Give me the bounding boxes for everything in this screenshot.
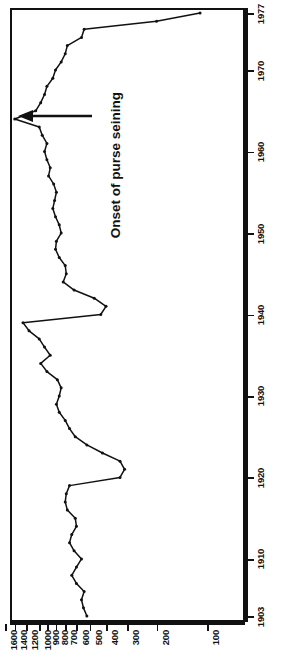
data-point <box>123 468 126 471</box>
data-point <box>119 476 122 479</box>
data-point <box>82 606 85 609</box>
value-tick-label: 800 <box>60 630 69 645</box>
data-point <box>73 549 76 552</box>
year-tick <box>247 559 254 561</box>
data-point <box>28 329 31 332</box>
year-tick <box>247 70 254 72</box>
data-point <box>68 484 71 487</box>
annotation-arrow <box>18 110 92 122</box>
year-tick-label: 1977 <box>256 3 265 23</box>
data-point <box>54 215 57 218</box>
year-tick-label: 1970 <box>256 60 265 80</box>
value-tick <box>5 624 7 631</box>
data-point <box>21 321 24 324</box>
data-point <box>74 517 77 520</box>
data-point <box>101 452 104 455</box>
value-tick <box>127 624 129 631</box>
value-tick <box>157 624 159 631</box>
data-point <box>34 109 37 112</box>
data-point <box>43 93 46 96</box>
year-tick-label: 1920 <box>256 468 265 488</box>
year-tick-label: 1930 <box>256 386 265 406</box>
value-tick-label: 1600 <box>9 630 18 650</box>
data-point <box>58 223 61 226</box>
data-point <box>65 492 68 495</box>
data-point <box>62 280 65 283</box>
data-point <box>52 183 55 186</box>
data-point <box>83 590 86 593</box>
data-point <box>55 403 58 406</box>
data-point <box>54 248 57 251</box>
value-tick-label: 300 <box>131 630 140 645</box>
data-point <box>66 44 69 47</box>
year-tick-label: 1903 <box>256 606 265 626</box>
data-point <box>58 394 61 397</box>
data-point <box>66 509 69 512</box>
data-point <box>41 134 44 137</box>
data-point <box>64 419 67 422</box>
data-point <box>56 378 59 381</box>
data-point <box>45 142 48 145</box>
data-point <box>53 199 56 202</box>
data-point <box>39 362 42 365</box>
data-point <box>105 305 108 308</box>
data-point <box>45 158 48 161</box>
data-point <box>60 232 63 235</box>
data-point <box>64 264 67 267</box>
plot-canvas <box>0 0 284 664</box>
data-point <box>70 574 73 577</box>
data-line-svg <box>0 0 284 664</box>
value-tick-label: 100 <box>211 630 220 645</box>
data-point <box>38 126 41 129</box>
data-point <box>39 101 42 104</box>
value-tick <box>106 624 108 631</box>
value-tick-label: 400 <box>110 630 119 645</box>
data-point <box>80 36 83 39</box>
year-tick-label: 1960 <box>256 142 265 162</box>
year-tick-label: 1910 <box>256 549 265 569</box>
data-point <box>65 272 68 275</box>
data-point <box>83 28 86 31</box>
data-point <box>51 207 54 210</box>
data-point <box>73 289 76 292</box>
data-point <box>70 533 73 536</box>
data-point <box>43 150 46 153</box>
data-point <box>68 541 71 544</box>
data-point <box>64 52 67 55</box>
data-point <box>49 166 52 169</box>
year-tick <box>247 13 254 15</box>
data-point <box>74 435 77 438</box>
data-point <box>75 582 78 585</box>
data-point <box>43 346 46 349</box>
value-tick-label: 1200 <box>30 630 39 650</box>
data-point <box>45 370 48 373</box>
data-point <box>60 60 63 63</box>
value-tick <box>207 624 209 631</box>
data-point <box>47 174 50 177</box>
year-tick-label: 1950 <box>256 223 265 243</box>
year-tick <box>247 477 254 479</box>
data-point <box>75 525 78 528</box>
data-point <box>80 598 83 601</box>
value-tick-label: 1000 <box>43 630 52 650</box>
value-tick-label: 600 <box>81 630 90 645</box>
data-point <box>64 500 67 503</box>
data-point <box>60 386 63 389</box>
annotation-label: Onset of purse seining <box>108 92 123 238</box>
value-tick-label: 200 <box>161 630 170 645</box>
data-point <box>49 354 52 357</box>
data-point <box>80 557 83 560</box>
data-point <box>99 313 102 316</box>
value-tick-label: 500 <box>94 630 103 645</box>
data-point <box>13 117 16 120</box>
data-point <box>45 85 48 88</box>
data-point <box>54 69 57 72</box>
data-point <box>38 337 41 340</box>
data-point <box>51 77 54 80</box>
data-point <box>55 240 58 243</box>
data-point <box>199 12 202 15</box>
year-tick-label: 1940 <box>256 305 265 325</box>
data-point <box>93 297 96 300</box>
data-point <box>68 427 71 430</box>
data-point <box>55 191 58 194</box>
